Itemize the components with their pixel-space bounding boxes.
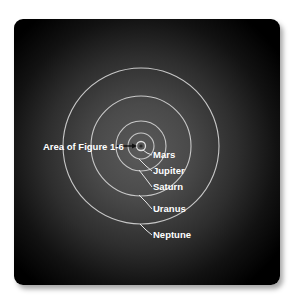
leader-mars bbox=[143, 150, 152, 155]
sun-marker bbox=[139, 144, 142, 147]
leader-neptune bbox=[140, 224, 152, 235]
label-mars: Mars bbox=[153, 149, 175, 160]
planet-labels: Mars Jupiter Saturn Uranus Neptune bbox=[153, 149, 191, 240]
leader-saturn bbox=[139, 170, 152, 187]
leader-lines bbox=[139, 150, 152, 235]
label-jupiter: Jupiter bbox=[153, 165, 185, 176]
label-uranus: Uranus bbox=[153, 203, 186, 214]
leader-jupiter bbox=[139, 159, 152, 171]
leader-uranus bbox=[139, 195, 152, 209]
label-neptune: Neptune bbox=[153, 229, 191, 240]
label-saturn: Saturn bbox=[153, 181, 183, 192]
orbit-diagram: Area of Figure 1-6 Mars Jupiter Saturn U… bbox=[0, 0, 302, 307]
callout-label: Area of Figure 1-6 bbox=[43, 141, 124, 152]
